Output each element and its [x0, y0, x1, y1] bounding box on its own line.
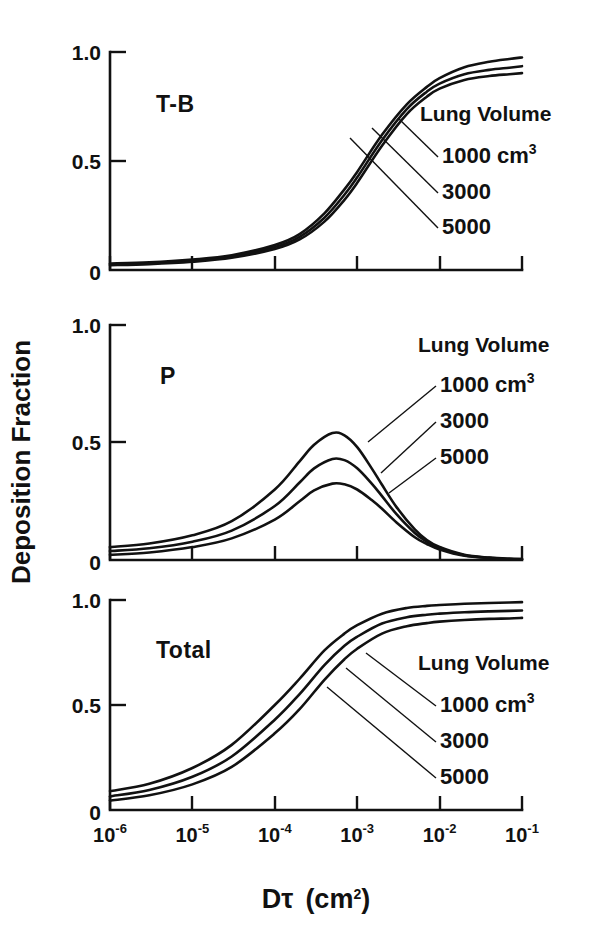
panel-2-legend-entry-1000: 1000cm3	[440, 370, 535, 397]
panel-1-ylabel-middle: 0.5	[72, 150, 102, 173]
panel-3-legend-entry-1000: 1000cm3	[440, 690, 535, 717]
x-tick-mantissa: 10	[258, 824, 280, 846]
panel-3-xticks	[110, 796, 522, 810]
panel-3-legend-title: Lung Volume	[418, 651, 549, 674]
panel-1-leader-3000	[372, 128, 438, 193]
svg-text:Dτ(cm2): Dτ(cm2)	[262, 884, 370, 914]
panel-tracheobronchial: 1.0 0.5 0 T-B Lung Volume 1000cm3 3000 5…	[72, 41, 552, 284]
panel-2-leader-5000	[389, 458, 436, 493]
x-tick-label-0: 10-6	[93, 821, 127, 846]
x-axis-title-d: D	[262, 884, 282, 914]
panel-3-legend-entry-3000: 3000	[440, 728, 489, 753]
x-tick-mantissa: 10	[175, 824, 197, 846]
panel-2-ylabel-middle: 0.5	[72, 431, 102, 454]
panel-2-leader-3000	[381, 422, 436, 473]
panel-2-leader-1000	[368, 386, 436, 442]
panel-2-legend-entry-3000: 3000	[440, 408, 489, 433]
x-tick-mantissa: 10	[423, 824, 445, 846]
panel-2-legend-title: Lung Volume	[418, 333, 549, 356]
x-tick-exponent: -2	[445, 821, 457, 836]
panel-2-legend: Lung Volume 1000cm3 3000 5000	[368, 333, 549, 493]
x-axis-title-units-close: )	[361, 884, 370, 914]
panel-3-ylabel-middle: 0.5	[72, 694, 102, 717]
x-axis-title-tau: τ	[281, 884, 293, 914]
x-tick-label-4: 10-2	[423, 821, 457, 846]
x-tick-labels: 10-610-510-410-310-210-1	[93, 821, 539, 846]
x-axis-title: Dτ(cm2)	[262, 884, 370, 914]
panel-3-legend-entry-5000: 5000	[440, 764, 489, 789]
x-tick-label-3: 10-3	[340, 821, 374, 846]
x-tick-exponent: -5	[198, 821, 210, 836]
panel-3-leader-5000	[327, 687, 436, 778]
figure-root: Deposition Fraction Dτ(cm2) 1.0 0.5 0	[0, 0, 609, 935]
x-tick-exponent: -1	[527, 821, 539, 836]
x-axis-title-units-exponent: 2	[353, 886, 361, 902]
panel-1-leader-5000	[350, 138, 438, 228]
x-tick-exponent: -3	[363, 821, 375, 836]
panel-1-legend-entry-5000: 5000	[442, 214, 491, 239]
curve-pulmonary-5000	[110, 483, 522, 559]
panel-2-label: P	[160, 363, 176, 389]
x-tick-exponent: -6	[115, 821, 127, 836]
panel-pulmonary: 1.0 0.5 0 P Lung Volume 1000cm3 3000 500…	[72, 314, 550, 574]
deposition-fraction-figure: Deposition Fraction Dτ(cm2) 1.0 0.5 0	[0, 0, 609, 935]
panel-1-ylabel-bottom: 0	[89, 261, 101, 284]
panel-2-legend-entry-5000: 5000	[440, 444, 489, 469]
x-tick-mantissa: 10	[505, 824, 527, 846]
x-tick-exponent: -4	[280, 821, 292, 836]
panel-1-label: T-B	[156, 91, 195, 117]
panel-1-legend-entry-3000: 3000	[442, 179, 491, 204]
y-axis-title: Deposition Fraction	[6, 340, 36, 584]
x-tick-mantissa: 10	[340, 824, 362, 846]
panel-3-label: Total	[156, 637, 212, 663]
x-tick-label-2: 10-4	[258, 821, 293, 846]
panel-3-ylabel-top: 1.0	[72, 589, 101, 612]
x-tick-mantissa: 10	[93, 824, 115, 846]
panel-2-ylabel-bottom: 0	[89, 551, 101, 574]
x-tick-label-1: 10-5	[175, 821, 209, 846]
curve-pulmonary-3000	[110, 458, 522, 559]
panel-2-ylabel-top: 1.0	[72, 314, 101, 337]
panel-3-ylabel-bottom: 0	[89, 801, 101, 824]
panel-3-leader-3000	[346, 668, 436, 742]
x-axis-title-units-open: (cm	[305, 884, 353, 914]
panel-1-legend-entry-1000: 1000cm3	[442, 141, 537, 168]
x-tick-label-5: 10-1	[505, 821, 539, 846]
panel-1-legend: Lung Volume 1000cm3 3000 5000	[350, 102, 551, 239]
panel-total: 1.0 0.5 0 Total Lung Volume 1000cm3 3000…	[72, 589, 550, 824]
panel-1-ylabel-top: 1.0	[72, 41, 101, 64]
panel-3-legend: Lung Volume 1000cm3 3000 5000	[327, 651, 549, 789]
panel-1-legend-title: Lung Volume	[420, 102, 551, 125]
